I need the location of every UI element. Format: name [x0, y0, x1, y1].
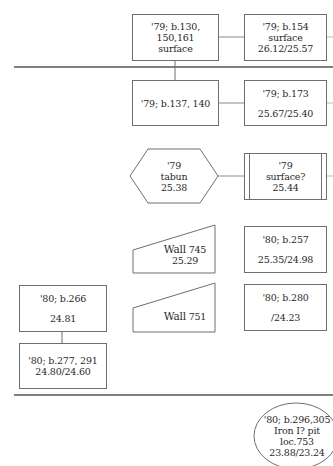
node-n13: '80; b.296,305 Iron I? pit loc.753 23.88…: [256, 408, 333, 464]
node-n4-line-3: 25.67/25.40: [258, 108, 313, 119]
node-n7-elevation: 25.29: [172, 255, 198, 266]
node-n5: '79 tabun 25.38: [148, 149, 200, 203]
node-n7-number: 745: [189, 244, 207, 255]
node-n5-line-1: '79: [167, 160, 181, 171]
node-n7-label: Wall: [164, 243, 186, 255]
node-n2: '79; b.154 surface 26.12/25.57: [244, 14, 327, 61]
harris-matrix-diagram: '79; b.130, 150,161 surface '79; b.154 s…: [0, 0, 333, 466]
node-n10-title: Wall 751: [164, 311, 206, 322]
node-n12-line-1: '80; b.277, 291: [28, 355, 97, 366]
node-n8: '80; b.257 25.35/24.98: [244, 226, 327, 273]
node-n9-line-3: 24.81: [50, 313, 76, 324]
node-n11-line-1: '80; b.280: [262, 292, 308, 303]
node-n4: '79; b.173 25.67/25.40: [244, 80, 327, 126]
node-n2-line-1: '79; b.154: [262, 21, 308, 32]
node-n5-line-3: 25.38: [161, 182, 187, 193]
node-n10-number: 751: [189, 311, 207, 322]
node-n12: '80; b.277, 291 24.80/24.60: [19, 343, 107, 389]
node-n9: '80; b.266 24.81: [19, 285, 107, 332]
node-n1-line-1: '79; b.130, 150,161: [133, 21, 218, 43]
node-n6-line-3: 25.44: [272, 182, 298, 193]
node-n11-line-3: /24.23: [271, 312, 300, 323]
node-n13-line-4: 23.88/23.24: [269, 447, 324, 458]
node-n6-line-2: surface?: [266, 171, 305, 182]
node-n1-line-2: surface: [158, 43, 192, 54]
node-n3-line-1: '79; b.137, 140: [141, 98, 210, 109]
node-n6: '79 surface? 25.44: [244, 153, 327, 200]
node-n13-line-3: loc.753: [280, 436, 314, 447]
node-n9-line-1: '80; b.266: [40, 293, 86, 304]
node-n6-line-1: '79: [278, 160, 292, 171]
node-n2-line-2: surface: [268, 32, 302, 43]
node-n11: '80; b.280 /24.23: [244, 284, 327, 331]
node-n5-line-2: tabun: [161, 171, 188, 182]
node-n4-line-1: '79; b.173: [262, 88, 308, 99]
node-n10-label: Wall: [164, 310, 186, 322]
node-n2-line-3: 26.12/25.57: [258, 43, 313, 54]
node-n13-line-2: Iron I? pit: [274, 425, 320, 436]
node-n3: '79; b.137, 140: [132, 80, 219, 126]
node-n10: Wall 751: [150, 306, 220, 326]
node-n8-line-3: 25.35/24.98: [258, 254, 313, 265]
node-n7: Wall 745 25.29: [150, 240, 220, 270]
node-n1: '79; b.130, 150,161 surface: [132, 14, 219, 61]
node-n7-title: Wall 745: [164, 244, 206, 255]
node-n8-line-1: '80; b.257: [262, 234, 308, 245]
node-n13-line-1: '80; b.296,305: [264, 414, 331, 425]
node-n12-line-2: 24.80/24.60: [35, 366, 90, 377]
